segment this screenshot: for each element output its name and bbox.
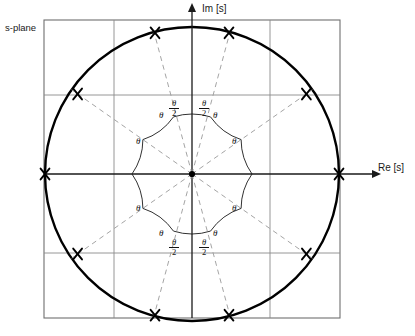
dashed-ray-325deg [192,174,312,258]
half-theta-numerator: θ [198,99,210,108]
arc-theta-325-360 [241,174,252,208]
half-theta-numerator: θ [168,238,180,247]
half-theta-denominator: 2 [198,109,210,118]
theta-label-325-360: θ [232,203,236,213]
half-theta-denominator: 2 [168,248,180,257]
imaginary-axis-arrowhead [188,3,196,12]
theta-label-145-180: θ [136,136,140,146]
half-theta-label-lower-right: θ 2 [198,238,210,256]
half-theta-denominator: 2 [198,248,210,257]
theta-label-105-145: θ [159,110,163,120]
diagram-canvas [0,0,415,336]
half-theta-numerator: θ [168,99,180,108]
theta-label-215-255: θ [159,228,163,238]
s-plane-label: s-plane [5,22,36,33]
theta-label-35-75: θ [232,136,236,146]
half-theta-label-lower-left: θ 2 [168,238,180,256]
arc-theta-105-145 [143,117,174,140]
half-theta-denominator: 2 [168,109,180,118]
dashed-ray-35deg [192,90,312,174]
half-theta-numerator: θ [198,238,210,247]
half-theta-label-upper-right: θ 2 [198,99,210,117]
half-theta-label-upper-left: θ 2 [168,99,180,117]
arc-theta-75-105 [211,117,242,140]
arc-half-theta-lower-right [192,231,211,234]
imaginary-axis-label: Im [s] [202,3,226,14]
arc-theta-35-75 [241,140,252,174]
s-plane-diagram: s-plane Im [s] Re [s] θ θ θ θ θ θ θ θ θ … [0,0,415,336]
arc-half-theta-lower-left [174,231,193,234]
real-axis-label: Re [s] [378,162,404,173]
theta-label-285-325: θ [213,228,217,238]
origin-point [189,171,195,177]
theta-label-180-215: θ [136,203,140,213]
theta-label-75-105: θ [213,110,217,120]
